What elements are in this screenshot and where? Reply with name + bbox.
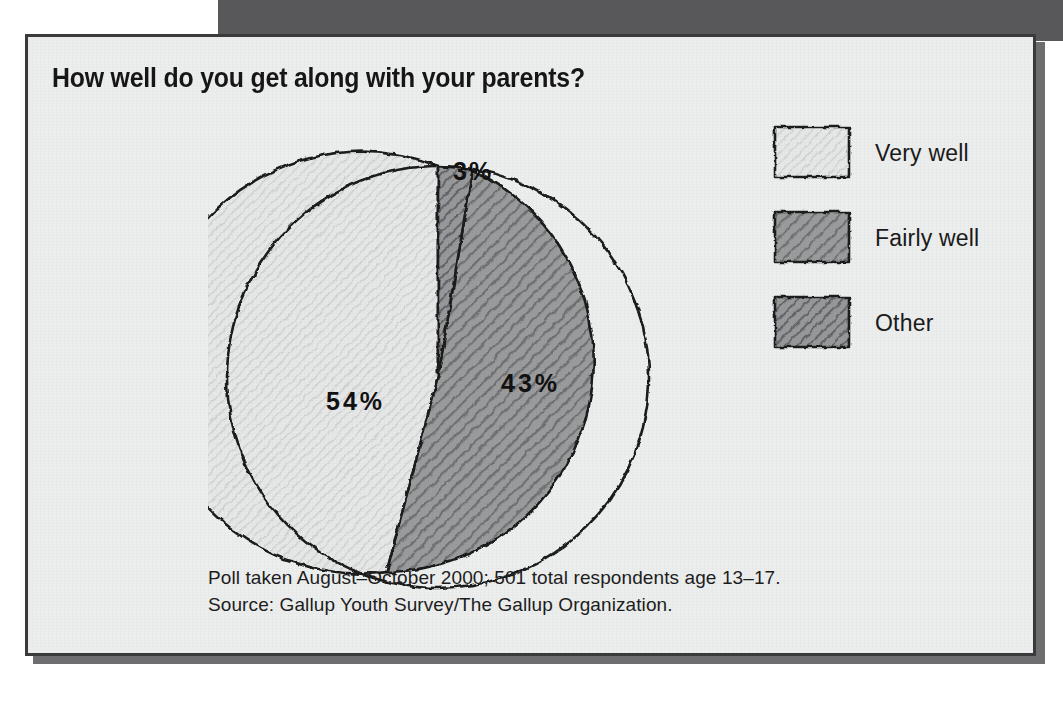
legend-item-very-well: Very well — [773, 117, 1023, 189]
legend-item-fairly-well: Fairly well — [773, 202, 1023, 274]
light-hatch-swatch — [773, 125, 853, 181]
footnote: Poll taken August–October 2000; 501 tota… — [208, 565, 781, 619]
pie-label-very-well: 54% — [326, 387, 385, 416]
chart-page: How well do you get along with your pare… — [0, 0, 1063, 727]
pie-label-other: 3% — [453, 157, 493, 186]
chart-title: How well do you get along with your pare… — [52, 63, 585, 94]
legend-label-other: Other — [875, 310, 934, 337]
legend-label-fairly-well: Fairly well — [875, 225, 979, 252]
chart-panel: How well do you get along with your pare… — [25, 34, 1036, 656]
footnote-source-line: Source: Gallup Youth Survey/The Gallup O… — [208, 592, 781, 619]
dark-hatch-swatch — [773, 295, 853, 351]
legend: Very well Fairly well — [773, 117, 1023, 372]
legend-label-very-well: Very well — [875, 140, 969, 167]
pie-label-fairly-well: 43% — [501, 369, 560, 398]
footnote-poll-line: Poll taken August–October 2000; 501 tota… — [208, 565, 781, 592]
pie-svg — [208, 147, 668, 607]
pie-chart: 54% 43% 3% — [208, 147, 668, 607]
legend-item-other: Other — [773, 287, 1023, 359]
medium-hatch-swatch — [773, 210, 853, 266]
